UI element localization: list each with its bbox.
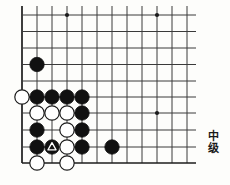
- star-point-2: [155, 111, 159, 115]
- black-stone-d6[interactable]: [60, 90, 74, 104]
- white-stone-disc: [30, 156, 44, 170]
- star-point-1: [155, 13, 159, 17]
- black-stone-g9[interactable]: [105, 140, 119, 154]
- rank-label-char-2: 级: [202, 143, 224, 155]
- black-stone-disc: [75, 90, 89, 104]
- rank-label: 中 级: [202, 131, 224, 155]
- go-problem-figure: 中 级: [0, 0, 230, 185]
- black-stone-marked-c9[interactable]: [45, 140, 59, 154]
- white-stone-d7[interactable]: [60, 106, 74, 120]
- white-stone-disc: [45, 106, 59, 120]
- white-stone-disc: [60, 156, 74, 170]
- white-stone-disc: [30, 106, 44, 120]
- black-stone-e8[interactable]: [75, 123, 89, 137]
- black-stone-disc: [75, 106, 89, 120]
- white-stone-disc: [15, 90, 29, 104]
- black-stone-disc: [30, 90, 44, 104]
- black-stone-b6[interactable]: [30, 90, 44, 104]
- white-stone-b7[interactable]: [30, 106, 44, 120]
- white-stone-b10[interactable]: [30, 156, 44, 170]
- black-stone-disc: [30, 57, 44, 71]
- black-stone-disc: [30, 140, 44, 154]
- white-stone-c7[interactable]: [45, 106, 59, 120]
- black-stone-b4[interactable]: [30, 57, 44, 71]
- black-stone-disc: [45, 90, 59, 104]
- black-stone-b8[interactable]: [30, 123, 44, 137]
- black-stone-disc: [60, 90, 74, 104]
- black-stone-disc: [75, 123, 89, 137]
- star-point-0: [65, 13, 69, 17]
- black-stone-disc: [30, 123, 44, 137]
- white-stone-d9[interactable]: [60, 140, 74, 154]
- black-stone-e6[interactable]: [75, 90, 89, 104]
- black-stone-disc: [105, 140, 119, 154]
- black-stone-disc: [45, 140, 59, 154]
- black-stone-e9[interactable]: [75, 140, 89, 154]
- white-stone-a6[interactable]: [15, 90, 29, 104]
- black-stone-c6[interactable]: [45, 90, 59, 104]
- grid-lines: [22, 6, 196, 163]
- black-stone-e7[interactable]: [75, 106, 89, 120]
- white-stone-disc: [60, 123, 74, 137]
- white-stone-disc: [60, 140, 74, 154]
- black-stone-disc: [75, 140, 89, 154]
- black-stone-b9[interactable]: [30, 140, 44, 154]
- white-stone-d10[interactable]: [60, 156, 74, 170]
- white-stone-d8[interactable]: [60, 123, 74, 137]
- white-stone-disc: [60, 106, 74, 120]
- goban[interactable]: [0, 0, 230, 185]
